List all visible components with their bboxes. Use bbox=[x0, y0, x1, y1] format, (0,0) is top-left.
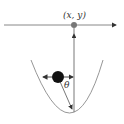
angle-label: θ bbox=[64, 80, 70, 90]
ball bbox=[52, 71, 64, 83]
point-label: (x, y) bbox=[63, 10, 86, 20]
pivot-point bbox=[71, 22, 77, 28]
pendulum-diagram: (x, y) θ bbox=[0, 0, 124, 124]
